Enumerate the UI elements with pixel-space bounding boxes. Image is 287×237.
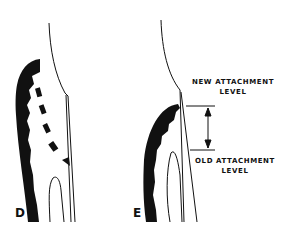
- new-attachment-line2: LEVEL: [188, 87, 278, 97]
- panel-label-e: E: [133, 206, 141, 220]
- new-attachment-line1: NEW ATTACHMENT: [188, 77, 278, 87]
- bone-e: [143, 104, 180, 222]
- diagram-canvas: [0, 0, 287, 237]
- root-canal-d: [49, 177, 64, 222]
- bone-d: [16, 59, 40, 222]
- panel-label-d: D: [15, 206, 25, 220]
- old-attachment-line1: OLD ATTACHMENT: [190, 156, 280, 166]
- old-attachment-line2: LEVEL: [190, 166, 280, 176]
- panel-d-drawing: [49, 23, 75, 222]
- attachment-measure: [186, 106, 215, 150]
- dashed-path-d: [35, 87, 70, 166]
- old-attachment-label: OLD ATTACHMENT LEVEL: [190, 156, 280, 176]
- root-canal-e: [167, 152, 182, 222]
- new-attachment-label: NEW ATTACHMENT LEVEL: [188, 77, 278, 97]
- tooth-outline-d: [49, 23, 75, 222]
